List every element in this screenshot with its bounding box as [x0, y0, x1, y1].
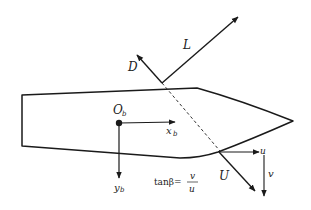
equation-denominator: u — [189, 184, 195, 194]
lift-label: L — [182, 38, 191, 52]
velocity-label: U — [219, 169, 230, 183]
equation-tan-beta: tanβ= v u — [154, 171, 198, 194]
u-label: u — [260, 146, 266, 156]
origin-sub: b — [122, 110, 127, 118]
ship-diagram: L D O b x b y b U u v tanβ= v u — [0, 0, 311, 210]
drag-arrow — [137, 55, 162, 83]
drag-label: D — [127, 60, 138, 74]
x-axis-sub: b — [173, 130, 178, 138]
x-axis-arrow — [119, 122, 175, 123]
x-axis-label: x — [166, 125, 172, 136]
y-axis-sub: b — [120, 186, 125, 194]
y-axis-label: y — [113, 182, 120, 193]
equation-lhs: tanβ= — [154, 177, 182, 187]
equation-numerator: v — [190, 171, 195, 181]
hull-outline — [22, 88, 293, 158]
centerline-dashed — [162, 83, 220, 151]
v-label: v — [268, 168, 274, 179]
lift-arrow — [162, 17, 238, 83]
